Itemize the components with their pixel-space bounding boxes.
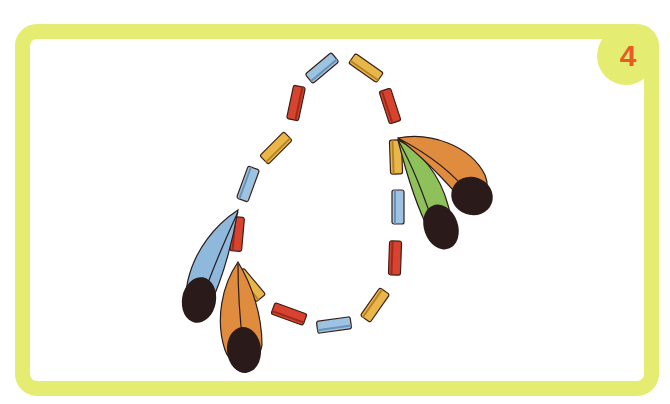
bead [392, 190, 404, 224]
bead [260, 132, 293, 165]
bead [316, 317, 351, 334]
bead [349, 53, 384, 82]
bead [379, 88, 401, 124]
bead [271, 303, 307, 326]
bead [360, 288, 389, 323]
bead [287, 85, 306, 121]
necklace-illustration [0, 0, 670, 404]
bead [305, 52, 339, 83]
feather-orange-left [220, 262, 263, 374]
bead [388, 241, 401, 275]
bead [237, 166, 260, 202]
